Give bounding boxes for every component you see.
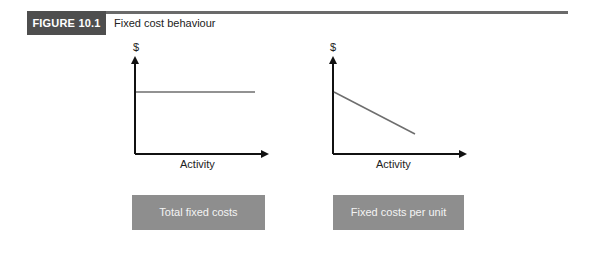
caption-total-fixed-costs: Total fixed costs	[132, 195, 265, 230]
charts-canvas: $ Activity $ Activity	[0, 0, 596, 259]
per-unit-cost-line	[334, 92, 415, 134]
chart-total-fixed-costs: $ Activity	[133, 41, 267, 170]
y-axis-label: $	[330, 41, 336, 53]
y-axis-label: $	[133, 41, 139, 53]
caption-fixed-costs-per-unit: Fixed costs per unit	[333, 195, 464, 230]
x-axis-label: Activity	[180, 158, 215, 170]
x-axis-label: Activity	[376, 158, 411, 170]
chart-fixed-costs-per-unit: $ Activity	[330, 41, 465, 170]
